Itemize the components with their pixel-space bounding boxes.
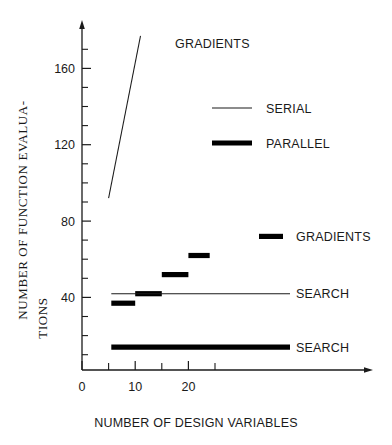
y-tick-label: 120 <box>54 138 75 152</box>
series-search-serial: SEARCH <box>111 287 349 301</box>
chart-legend: SERIAL PARALLEL <box>212 102 330 151</box>
legend-parallel-label: PARALLEL <box>266 137 330 151</box>
search-serial-label: SEARCH <box>296 287 349 301</box>
y-tick-label: 160 <box>54 62 75 76</box>
gradients-parallel-label: GRADIENTS <box>296 230 371 244</box>
y-tick-labels: 40 80 120 160 <box>54 62 75 305</box>
chart-figure: 40 80 120 160 0 10 20 NUMBER OF DESIGN V… <box>0 0 392 445</box>
y-axis-arrow-icon <box>79 20 85 29</box>
y-tick-label: 80 <box>61 215 75 229</box>
gradients-serial-label: GRADIENTS <box>175 37 250 51</box>
y-tick-label: 40 <box>61 291 75 305</box>
y-axis-title-line1: NUMBER OF FUNCTION EVALUA- <box>15 100 30 319</box>
x-tick-label: 10 <box>128 380 142 394</box>
chart-svg: 40 80 120 160 0 10 20 NUMBER OF DESIGN V… <box>0 0 392 445</box>
x-axis-arrow-icon <box>364 367 373 373</box>
x-axis-title: NUMBER OF DESIGN VARIABLES <box>94 416 298 430</box>
y-axis-ticks <box>82 49 91 354</box>
series-gradients-serial: GRADIENTS <box>109 36 250 198</box>
search-parallel-label: SEARCH <box>296 341 349 355</box>
series-search-parallel: SEARCH <box>111 341 349 355</box>
legend-serial-label: SERIAL <box>266 102 312 116</box>
gradients-serial-line <box>109 36 141 198</box>
x-axis-ticks <box>82 361 215 370</box>
axes-group <box>79 20 373 373</box>
x-tick-label: 20 <box>181 380 195 394</box>
y-axis-title-line2: TIONS <box>35 297 50 338</box>
x-tick-label: 0 <box>79 380 86 394</box>
x-tick-labels: 0 10 20 <box>79 380 196 394</box>
